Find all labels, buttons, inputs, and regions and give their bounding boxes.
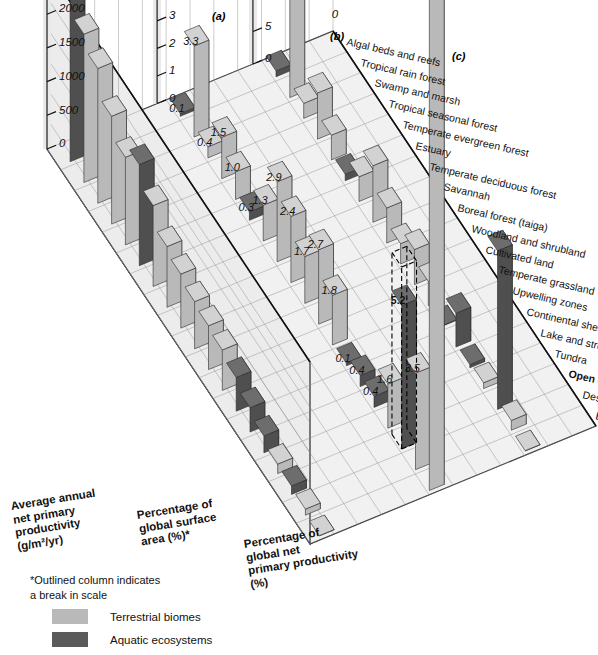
legend-label-terrestrial: Terrestrial biomes: [110, 611, 201, 623]
tick-label-b-2: 2: [169, 37, 175, 49]
legend-swatch-aquatic: [52, 632, 88, 647]
value-label-b-6: 1.3: [252, 194, 267, 206]
tick-label-a-4: 2000: [59, 2, 85, 14]
value-label-b-7: 2.9: [266, 171, 281, 183]
tick-label-a-2: 1000: [59, 70, 85, 82]
value-label-b-10: 2.7: [308, 238, 323, 250]
legend-item-terrestrial: Terrestrial biomes: [52, 607, 212, 626]
value-label-b-15: 1.6: [377, 373, 392, 385]
value-label-b-13: 0.4: [349, 364, 364, 376]
value-label-b-1: 3.3: [183, 35, 198, 47]
panel-letter-c: (c): [452, 50, 465, 62]
value-label-b-3: 1.5: [211, 126, 226, 138]
value-label-b-12: 0.1: [335, 352, 350, 364]
tick-label-c-0: 0: [265, 52, 271, 64]
panel-letter-a: (a): [212, 10, 225, 22]
legend-swatch-terrestrial: [52, 609, 88, 624]
value-label-b-16: 5.2: [391, 294, 406, 306]
value-label-b-14: 0.4: [363, 385, 378, 397]
value-label-b-8: 2.4: [280, 205, 295, 217]
category-axis-zero: 0: [332, 8, 338, 20]
break-in-scale-footnote: *Outlined column indicates a break in sc…: [30, 573, 160, 603]
tick-label-b-1: 1: [169, 64, 175, 76]
tick-label-a-3: 1500: [59, 36, 85, 48]
tick-label-c-1: 5: [265, 20, 271, 32]
legend-label-aquatic: Aquatic ecosystems: [110, 634, 212, 646]
value-label-b-0: 0.1: [169, 102, 184, 114]
tick-label-a-1: 500: [59, 104, 78, 116]
value-label-b-11: 1.8: [322, 284, 337, 296]
legend: Terrestrial biomes Aquatic ecosystems: [52, 607, 212, 653]
panel-letter-b: (b): [330, 30, 344, 42]
value-label-b-4: 1.0: [225, 161, 240, 173]
legend-item-aquatic: Aquatic ecosystems: [52, 630, 212, 649]
tick-label-b-3: 3: [169, 9, 175, 21]
figure-root: (a) (b) (c) Average annual net primary p…: [0, 0, 598, 655]
tick-label-a-0: 0: [59, 137, 65, 149]
value-label-b-17: 3.5: [405, 362, 420, 374]
